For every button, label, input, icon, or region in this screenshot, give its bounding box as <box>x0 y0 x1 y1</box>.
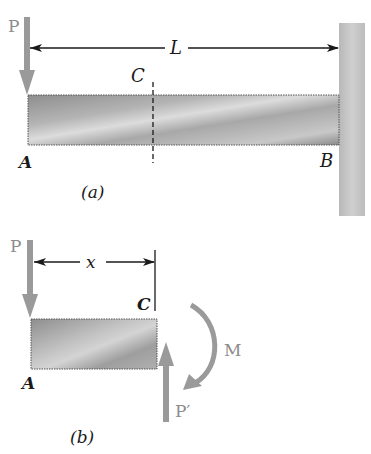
end-label-a-b: A <box>20 373 35 393</box>
figure-a: P L C A B (a) <box>8 16 365 216</box>
caption-b: (b) <box>70 427 94 447</box>
fixed-wall-support <box>339 23 365 216</box>
load-label-p: P <box>8 16 19 36</box>
length-dimension-line <box>30 44 339 52</box>
caption-a: (a) <box>81 182 104 202</box>
beam-segment-ac <box>31 319 157 369</box>
cantilever-beam-diagram: P L C A B (a) P <box>0 0 371 454</box>
distance-label-x: x <box>86 252 96 272</box>
reaction-label-p-prime: P′ <box>175 401 190 421</box>
figure-b: P x C A M P′ (b) <box>10 236 241 447</box>
load-arrow-p-b <box>22 240 38 318</box>
moment-arrow-m <box>183 305 215 390</box>
moment-label-m: M <box>224 340 241 360</box>
section-label-c-b: C <box>137 294 151 314</box>
load-label-p-b: P <box>10 236 21 256</box>
beam-ab <box>28 95 339 145</box>
end-label-b: B <box>319 150 333 171</box>
end-label-a: A <box>17 152 32 172</box>
length-label-l: L <box>169 37 182 58</box>
reaction-arrow-p-prime <box>158 342 174 422</box>
section-label-c: C <box>131 65 145 86</box>
load-arrow-p <box>19 17 35 95</box>
